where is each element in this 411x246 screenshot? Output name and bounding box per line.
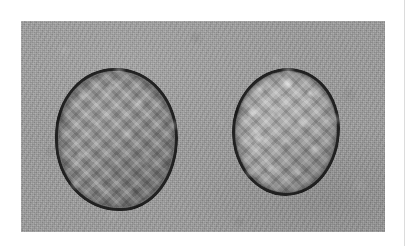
specimen-left xyxy=(55,68,178,211)
specimen-left-rim-variation xyxy=(55,68,178,211)
figure-photograph xyxy=(21,21,385,232)
column-rule xyxy=(404,0,405,246)
page-canvas xyxy=(0,0,411,246)
